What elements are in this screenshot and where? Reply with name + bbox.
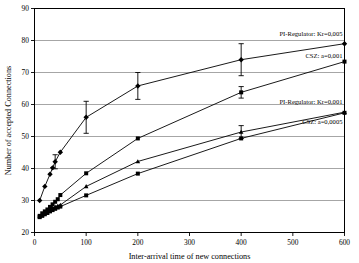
- y-tick-label: 70: [22, 68, 30, 77]
- series-annotation-2: PI-Regulator: Kr=0,001: [279, 98, 342, 105]
- x-tick-label: 200: [132, 238, 143, 247]
- y-axis-title: Number of accepted Connections: [4, 66, 13, 175]
- data-point: [58, 205, 62, 209]
- chart-root: 0100200300400500600 2030405060708090 PI-…: [0, 0, 359, 263]
- x-tick-label: 500: [287, 238, 298, 247]
- y-tick-label: 90: [22, 4, 30, 13]
- y-tick-label: 40: [22, 164, 30, 173]
- x-tick-label: 100: [81, 238, 92, 247]
- data-point: [343, 60, 347, 64]
- line-chart: 0100200300400500600 2030405060708090 PI-…: [0, 0, 359, 263]
- data-point: [84, 171, 88, 175]
- x-axis-title: Inter-arrival time of new connections: [129, 252, 251, 261]
- series-annotation-3: CSZ: a=0,0005: [302, 118, 343, 125]
- data-point: [136, 136, 140, 140]
- series-annotation-0: PI-Regulator: Kr=0,005: [279, 30, 343, 37]
- data-point: [56, 197, 60, 201]
- x-tick-label: 400: [236, 238, 247, 247]
- y-tick-label: 80: [22, 36, 30, 45]
- data-point: [239, 136, 243, 140]
- x-tick-label: 0: [33, 238, 37, 247]
- chart-background: [0, 0, 359, 263]
- data-point: [58, 193, 62, 197]
- data-point: [84, 193, 88, 197]
- y-tick-label: 20: [22, 228, 30, 237]
- y-tick-label: 50: [22, 132, 30, 141]
- y-tick-label: 60: [22, 100, 30, 109]
- data-point: [239, 90, 243, 94]
- x-tick-label: 300: [184, 238, 195, 247]
- data-point: [343, 111, 347, 115]
- data-point: [136, 172, 140, 176]
- y-tick-label: 30: [22, 196, 30, 205]
- x-tick-label: 600: [339, 238, 350, 247]
- series-annotation-1: CSZ: a=0,001: [305, 52, 342, 59]
